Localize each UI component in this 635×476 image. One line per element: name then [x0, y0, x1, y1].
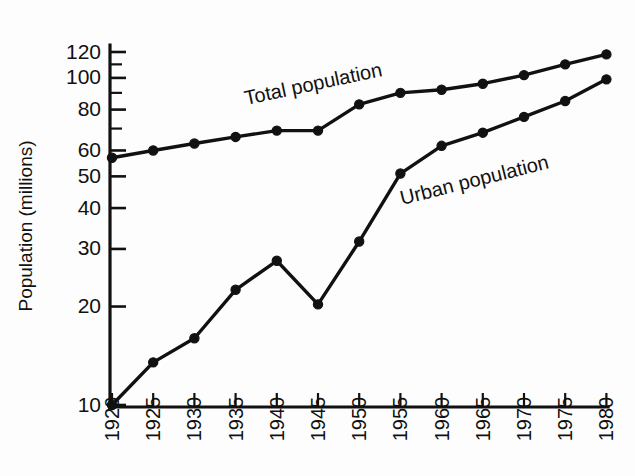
data-point: [437, 85, 446, 94]
data-point: [355, 100, 364, 109]
chart-figure: 10203040506080100120 1920192519301935194…: [0, 0, 635, 476]
data-point: [437, 141, 446, 150]
y-tick-label-10: 10: [78, 393, 101, 416]
data-point: [107, 153, 116, 162]
data-point: [355, 237, 364, 246]
x-tick-label-1955: 1955: [389, 397, 411, 442]
data-point: [396, 169, 405, 178]
x-tick-label-1970: 1970: [513, 397, 535, 442]
y-tick-label-60: 60: [78, 138, 101, 161]
x-tick-label-1945: 1945: [307, 397, 329, 442]
data-series-group: [107, 50, 611, 410]
data-point: [313, 126, 322, 135]
data-point: [107, 400, 116, 409]
population-line-chart: 10203040506080100120 1920192519301935194…: [0, 0, 635, 476]
x-tick-label-1925: 1925: [142, 397, 164, 442]
data-point: [231, 132, 240, 141]
y-tick-label-30: 30: [78, 236, 101, 259]
y-tick-label-80: 80: [78, 97, 101, 120]
data-point: [231, 285, 240, 294]
data-point: [313, 300, 322, 309]
y-tick-labels: 10203040506080100120: [66, 40, 101, 416]
x-tick-label-1950: 1950: [348, 397, 370, 442]
data-point: [519, 112, 528, 121]
data-point: [602, 50, 611, 59]
data-point: [190, 334, 199, 343]
x-tick-label-1935: 1935: [225, 397, 247, 442]
data-point: [149, 358, 158, 367]
y-tick-label-20: 20: [78, 294, 101, 317]
x-tick-label-1940: 1940: [266, 397, 288, 442]
data-point: [561, 96, 570, 105]
y-tick-label-100: 100: [66, 65, 101, 88]
data-point: [478, 128, 487, 137]
x-tick-labels: 1920192519301935194019451950195519601965…: [101, 397, 617, 442]
data-point: [519, 70, 528, 79]
data-point: [478, 79, 487, 88]
data-point: [602, 75, 611, 84]
y-tick-marks: [110, 52, 126, 405]
y-tick-label-120: 120: [66, 40, 101, 63]
x-tick-label-1980: 1980: [595, 397, 617, 442]
x-tick-label-1930: 1930: [183, 397, 205, 442]
y-axis-title: Population (millions): [15, 140, 36, 311]
data-point: [149, 146, 158, 155]
data-point: [396, 88, 405, 97]
y-tick-label-50: 50: [78, 164, 101, 187]
x-tick-label-1975: 1975: [554, 397, 576, 442]
x-tick-label-1960: 1960: [431, 397, 453, 442]
y-tick-label-40: 40: [78, 196, 101, 219]
data-point: [561, 60, 570, 69]
data-point: [190, 139, 199, 148]
data-point: [272, 256, 281, 265]
x-tick-label-1965: 1965: [472, 397, 494, 442]
data-point: [272, 126, 281, 135]
